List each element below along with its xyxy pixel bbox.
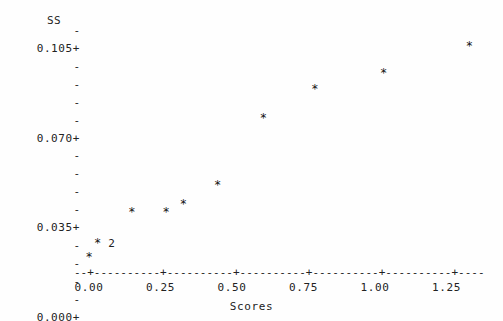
data-point: * [466, 40, 473, 52]
data-point: * [180, 198, 187, 210]
x-axis-line: --+----------+----------+----------+----… [74, 266, 485, 279]
y-axis-minor-tick: - [0, 149, 80, 161]
y-axis-tick-label: 0.105+ [0, 42, 80, 54]
x-axis-tick-label: 0.25 [146, 281, 175, 294]
y-axis-minor-tick: - [0, 24, 80, 36]
y-axis-minor-tick: - [0, 167, 80, 179]
y-axis-tick-label: 0.070+ [0, 132, 80, 144]
x-axis-tick-label: 0.75 [289, 281, 318, 294]
data-point: * [311, 83, 318, 95]
data-point: * [94, 237, 101, 249]
y-axis-minor-tick: - [0, 96, 80, 108]
y-axis-minor-tick: - [0, 185, 80, 197]
data-point: * [260, 112, 267, 124]
y-axis-minor-tick: - [0, 257, 80, 269]
y-axis-minor-tick: - [0, 60, 80, 72]
y-axis-minor-tick: - [0, 239, 80, 251]
x-axis-tick-label: 0.50 [218, 281, 247, 294]
data-point: * [380, 67, 387, 79]
y-axis-tick-label: 0.035+ [0, 221, 80, 233]
x-axis-tick-label: 1.00 [361, 281, 390, 294]
data-point: * [85, 251, 92, 263]
data-point: * [128, 206, 135, 218]
data-point: * [163, 206, 170, 218]
x-axis-title: Scores [0, 300, 503, 313]
x-axis-tick-label: 1.25 [432, 281, 461, 294]
y-axis-minor-tick: - [0, 275, 80, 287]
y-axis-minor-tick: - [0, 114, 80, 126]
y-axis-minor-tick: - [0, 78, 80, 90]
x-axis-tick-label: 0.00 [75, 281, 104, 294]
data-point-count-label: 2 [108, 237, 115, 248]
character-scatterplot: SS -0.105+----0.070+----0.035+----0.000+… [0, 0, 503, 321]
data-point: * [214, 179, 221, 191]
y-axis-minor-tick: - [0, 203, 80, 215]
